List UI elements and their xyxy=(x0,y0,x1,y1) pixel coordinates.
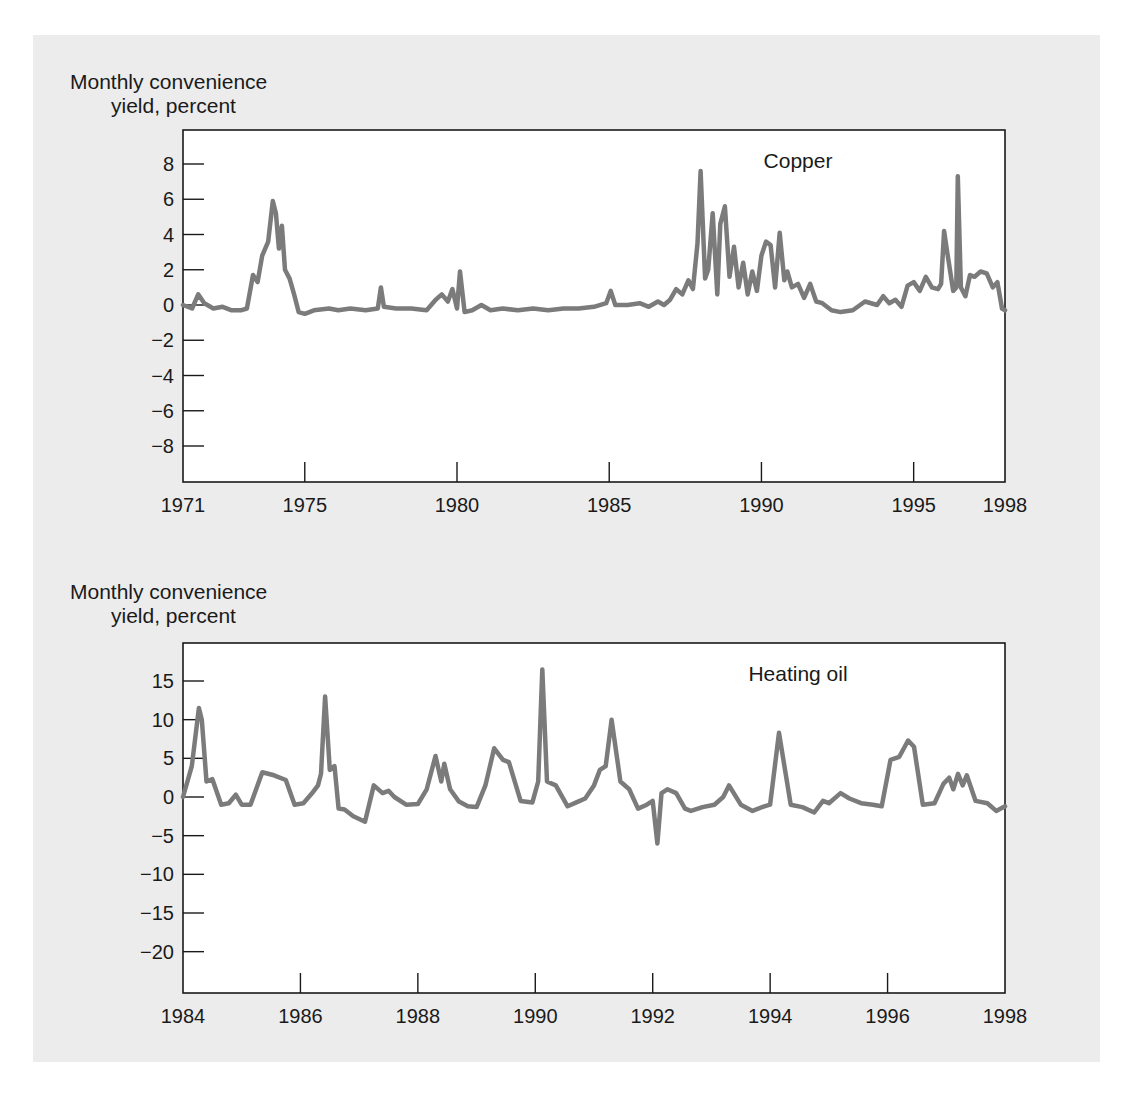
plot-area xyxy=(183,643,1005,993)
y-tick-label: 4 xyxy=(163,224,174,246)
x-tick-label: 1994 xyxy=(748,1005,793,1027)
x-tick-label: 1971 xyxy=(161,494,206,516)
y-tick-label: −20 xyxy=(140,941,174,963)
y-tick-label: −4 xyxy=(151,365,174,387)
y-tick-label: −15 xyxy=(140,902,174,924)
x-tick-label: 1996 xyxy=(865,1005,910,1027)
chart-title: Copper xyxy=(764,149,833,172)
x-tick-label: 1985 xyxy=(587,494,632,516)
x-tick-label: 1992 xyxy=(630,1005,675,1027)
x-tick-label: 1990 xyxy=(739,494,784,516)
y-tick-label: −8 xyxy=(151,435,174,457)
x-tick-label: 1995 xyxy=(891,494,936,516)
y-tick-label: 8 xyxy=(163,153,174,175)
y-tick-label: −5 xyxy=(151,825,174,847)
y-tick-label: 10 xyxy=(152,709,174,731)
x-tick-label: 1998 xyxy=(983,494,1028,516)
x-tick-label: 1988 xyxy=(396,1005,441,1027)
x-tick-label: 1984 xyxy=(161,1005,206,1027)
y-tick-label: −2 xyxy=(151,329,174,351)
x-tick-label: 1975 xyxy=(283,494,328,516)
y-tick-label: 0 xyxy=(163,786,174,808)
chart-title: Heating oil xyxy=(748,662,847,685)
x-tick-label: 1990 xyxy=(513,1005,558,1027)
copper-chart: 86420−2−4−6−8197119751980198519901995199… xyxy=(151,130,1027,516)
y-tick-label: 0 xyxy=(163,294,174,316)
y-tick-label: 6 xyxy=(163,188,174,210)
y-tick-label: −10 xyxy=(140,863,174,885)
x-tick-label: 1980 xyxy=(435,494,480,516)
y-tick-label: −6 xyxy=(151,400,174,422)
y-tick-label: 2 xyxy=(163,259,174,281)
x-tick-label: 1986 xyxy=(278,1005,323,1027)
y-tick-label: 5 xyxy=(163,747,174,769)
charts-canvas: 86420−2−4−6−8197119751980198519901995199… xyxy=(0,0,1135,1095)
heating-oil-chart: 151050−5−10−15−2019841986198819901992199… xyxy=(140,643,1027,1027)
y-tick-label: 15 xyxy=(152,670,174,692)
x-tick-label: 1998 xyxy=(983,1005,1028,1027)
